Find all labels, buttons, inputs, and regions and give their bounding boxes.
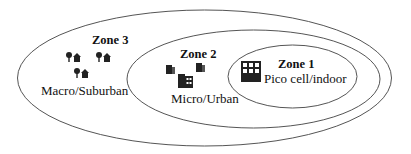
office-buildings-icon (166, 63, 205, 88)
zone-1-title: Zone 1 (278, 57, 314, 71)
zone-2-title: Zone 2 (180, 47, 216, 61)
zone-1-label: Pico cell/indoor (264, 72, 347, 86)
building-icon (241, 61, 261, 82)
zone-2-label: Micro/Urban (171, 92, 239, 106)
zone-diagram (0, 0, 411, 154)
zone-3-title: Zone 3 (92, 33, 128, 47)
house-tree-icon (66, 52, 111, 78)
zone-3-label: Macro/Suburban (41, 84, 128, 98)
